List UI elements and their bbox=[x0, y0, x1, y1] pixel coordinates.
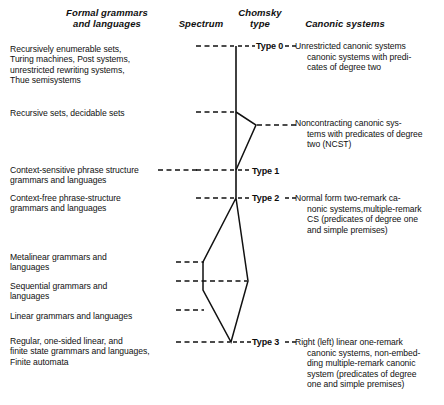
chomsky-hierarchy-figure: Formal grammars and languages Spectrum C… bbox=[0, 0, 444, 405]
spectrum-diagram bbox=[0, 0, 444, 405]
spectrum-upper-triangle bbox=[236, 112, 256, 170]
spectrum-lower-polygon bbox=[203, 198, 248, 342]
